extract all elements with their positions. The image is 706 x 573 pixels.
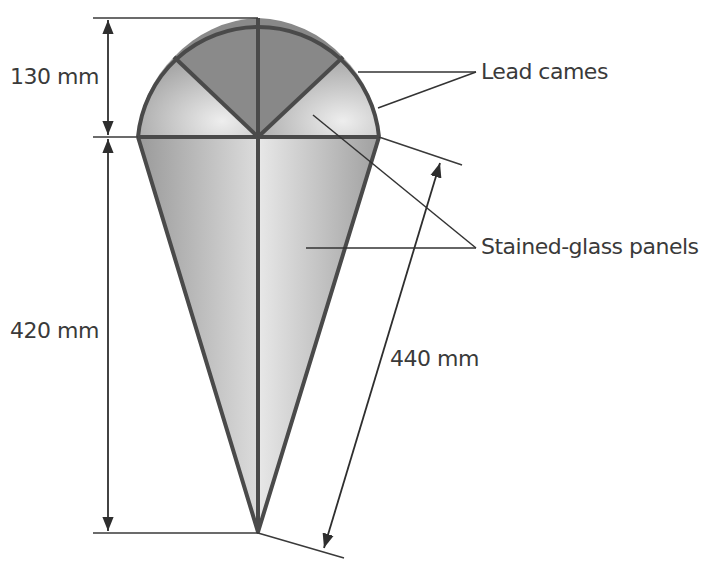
dome-height-label: 130 mm — [10, 64, 99, 89]
stained-glass-diagram — [0, 0, 706, 573]
cone-height-label: 420 mm — [10, 318, 99, 343]
lead-cames-label: Lead cames — [481, 59, 608, 84]
slant-length-label: 440 mm — [390, 346, 479, 371]
stained-glass-panels-label: Stained-glass panels — [481, 234, 699, 259]
